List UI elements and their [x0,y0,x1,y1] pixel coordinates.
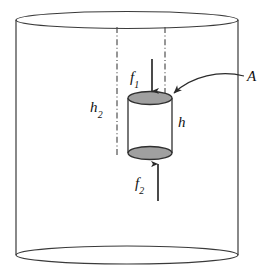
label-force-top-subscript: 1 [134,79,139,90]
label-depth: h2 [90,100,102,118]
label-height-symbol: h [178,114,186,130]
label-force-bottom-subscript: 2 [139,185,144,196]
label-area-symbol: A [247,68,256,84]
label-height: h [178,115,186,130]
diagram-canvas [0,0,273,278]
label-force-bottom: f2 [135,176,144,194]
area-leader-line [174,74,244,93]
label-depth-subscript: 2 [98,109,103,120]
inner-cylinder-top-cap [128,92,172,105]
outer-container [16,12,238,265]
inner-cylinder [128,92,172,160]
label-depth-symbol: h [90,99,98,115]
area-leader [174,74,244,93]
inner-cylinder-bottom-cap [128,147,172,160]
outer-container-bottom-ellipse [16,246,238,264]
label-force-top: f1 [130,70,139,88]
physics-diagram: f1 f2 h2 h A [0,0,273,278]
label-area: A [247,69,256,84]
outer-container-top-ellipse [16,12,238,29]
